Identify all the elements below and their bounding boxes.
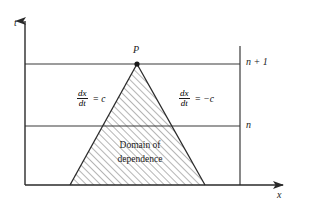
x-axis-label: x — [277, 190, 281, 200]
domain-caption-line-2: dependence — [99, 153, 181, 167]
domain-of-dependence-region — [70, 64, 205, 185]
t-axis-label: t — [14, 18, 17, 28]
right-formula-numerator: dx — [178, 89, 191, 98]
right-formula-denominator: dt — [179, 98, 190, 108]
left-formula-rhs: = c — [93, 94, 106, 104]
apex-point-marker — [134, 61, 139, 66]
right-formula-fraction: dx dt — [178, 89, 191, 109]
domain-caption-line-1: Domain of — [99, 139, 181, 153]
left-formula-numerator: dx — [76, 89, 89, 98]
domain-of-dependence-caption: Domain of dependence — [99, 139, 181, 167]
right-characteristic-formula: dx dt = −c — [178, 89, 214, 109]
figure-container: t x P n + 1 n dx dt = c dx dt = −c Domai… — [0, 0, 309, 211]
level-label-n: n — [246, 120, 251, 130]
level-label-n-plus-1: n + 1 — [246, 57, 268, 67]
left-formula-fraction: dx dt — [76, 89, 89, 109]
left-formula-denominator: dt — [77, 98, 88, 108]
diagram-canvas — [0, 0, 309, 211]
right-formula-rhs: = −c — [195, 94, 214, 104]
left-characteristic-formula: dx dt = c — [76, 89, 106, 109]
apex-point-label: P — [133, 45, 139, 55]
